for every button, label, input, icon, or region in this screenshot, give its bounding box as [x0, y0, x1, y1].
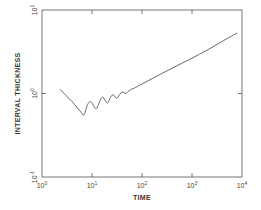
y-tick-label: 100 — [29, 88, 38, 99]
series-line — [60, 33, 237, 115]
x-tick-label: 102 — [137, 180, 148, 189]
y-tick-label: 101 — [29, 4, 38, 15]
x-tick-label: 101 — [87, 180, 98, 189]
x-tick-label: 103 — [187, 180, 198, 189]
x-axis-title: TIME — [133, 194, 151, 201]
x-axis-ticks: 100101102103104 — [37, 10, 248, 189]
x-tick-label: 104 — [237, 180, 248, 189]
chart-svg: 100101102103104 10-1100101 TIME INTERVAL… — [0, 0, 261, 210]
y-tick-label: 10-1 — [29, 171, 38, 183]
y-axis-title: INTERVAL THICKNESS — [14, 52, 21, 134]
data-series — [60, 33, 237, 115]
plot-frame — [42, 10, 242, 177]
x-tick-label: 100 — [37, 180, 48, 189]
y-axis-ticks: 10-1100101 — [29, 4, 242, 183]
